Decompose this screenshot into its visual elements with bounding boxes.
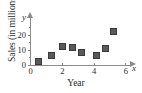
x-tick-label: 6 xyxy=(119,66,133,76)
x-axis-line xyxy=(30,65,132,66)
y-minor-tick-mark xyxy=(29,57,31,58)
y-minor-tick-mark xyxy=(29,42,31,43)
data-point-marker xyxy=(78,49,85,56)
y-tick-label: 10 xyxy=(10,45,26,55)
data-point-marker xyxy=(69,44,76,51)
data-point-marker xyxy=(48,52,55,59)
x-tick-label: 4 xyxy=(87,66,101,76)
y-tick-label: 20 xyxy=(10,30,26,40)
y-tick-mark xyxy=(28,35,31,36)
y-axis-arrow-icon xyxy=(27,12,33,18)
data-point-marker xyxy=(35,58,42,65)
data-point-marker xyxy=(102,45,109,52)
data-point-marker xyxy=(59,43,66,50)
scatter-plot-figure: Sales (in millions) Year y x 0246 01020 xyxy=(0,0,142,93)
x-tick-label: 2 xyxy=(55,66,69,76)
x-axis-title: Year xyxy=(36,78,116,88)
data-point-marker xyxy=(110,28,117,35)
y-axis-variable-label: y xyxy=(22,12,26,22)
data-point-marker xyxy=(93,52,100,59)
y-minor-tick-mark xyxy=(29,27,31,28)
y-tick-label: 0 xyxy=(10,60,26,70)
y-tick-mark xyxy=(28,50,31,51)
y-tick-mark xyxy=(28,65,31,66)
